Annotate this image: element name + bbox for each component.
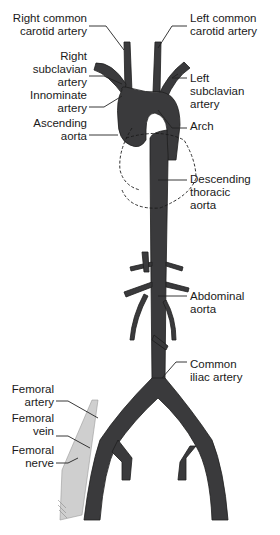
label-common-iliac: Common iliac artery bbox=[190, 358, 280, 384]
label-line: Left common bbox=[190, 12, 280, 25]
label-line: thoracic bbox=[190, 186, 280, 199]
label-innominate: Innominate artery bbox=[5, 89, 87, 115]
label-line: carotid artery bbox=[5, 25, 87, 38]
label-line: iliac artery bbox=[190, 371, 280, 384]
label-line: artery bbox=[5, 76, 87, 89]
label-line: Femoral bbox=[0, 412, 54, 425]
label-line: artery bbox=[0, 396, 54, 409]
label-line: aorta bbox=[5, 130, 87, 143]
label-ascending-aorta: Ascending aorta bbox=[5, 117, 87, 143]
label-line: aorta bbox=[190, 199, 280, 212]
label-abdominal-aorta: Abdominal aorta bbox=[190, 290, 280, 316]
label-line: Descending bbox=[190, 173, 280, 186]
label-line: Right bbox=[5, 50, 87, 63]
label-line: Femoral bbox=[0, 444, 54, 457]
label-line: subclavian bbox=[5, 63, 87, 76]
label-line: Common bbox=[190, 358, 280, 371]
label-line: carotid artery bbox=[190, 25, 280, 38]
label-line: Arch bbox=[190, 120, 280, 133]
label-right-common-carotid: Right common carotid artery bbox=[5, 12, 87, 38]
label-femoral-artery: Femoral artery bbox=[0, 383, 54, 409]
aortic-arch-shape bbox=[118, 87, 181, 160]
label-line: Ascending bbox=[5, 117, 87, 130]
label-line: Innominate bbox=[5, 89, 87, 102]
vessels bbox=[84, 42, 228, 520]
label-line: artery bbox=[190, 98, 280, 111]
label-femoral-vein: Femoral vein bbox=[0, 412, 54, 438]
label-femoral-nerve: Femoral nerve bbox=[0, 444, 54, 470]
label-left-common-carotid: Left common carotid artery bbox=[190, 12, 280, 38]
label-right-subclavian: Right subclavian artery bbox=[5, 50, 87, 89]
label-line: artery bbox=[5, 102, 87, 115]
label-line: Right common bbox=[5, 12, 87, 25]
label-left-subclavian: Left subclavian artery bbox=[190, 72, 280, 111]
label-arch: Arch bbox=[190, 120, 280, 133]
label-line: aorta bbox=[190, 303, 280, 316]
label-line: subclavian bbox=[190, 85, 280, 98]
label-line: Femoral bbox=[0, 383, 54, 396]
label-line: Abdominal bbox=[190, 290, 280, 303]
label-line: Left bbox=[190, 72, 280, 85]
common-iliac-shape bbox=[84, 378, 228, 520]
label-line: nerve bbox=[0, 457, 54, 470]
left-common-carotid-shape bbox=[153, 42, 161, 92]
label-line: vein bbox=[0, 425, 54, 438]
label-descending-thoracic: Descending thoracic aorta bbox=[190, 173, 280, 212]
